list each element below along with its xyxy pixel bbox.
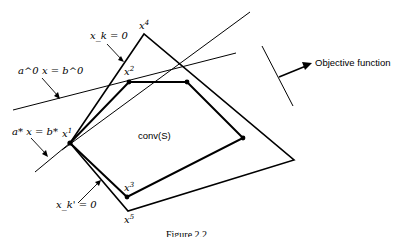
outer-polytope bbox=[70, 34, 294, 211]
astar-pointer bbox=[31, 138, 46, 154]
vertex-label-x2: x2 bbox=[124, 66, 134, 77]
vertex-label-x1: x1 bbox=[62, 128, 72, 139]
vertex-label-x3: x3 bbox=[124, 182, 134, 193]
vertex-dot-x3 bbox=[125, 195, 130, 200]
vertex-dot-x1 bbox=[67, 140, 72, 145]
vertex-dot-x2 bbox=[127, 80, 132, 85]
vertex-dot-upper-right bbox=[185, 80, 190, 85]
vertex-dot-right bbox=[241, 136, 246, 141]
xk-zero-label: x_k = 0 bbox=[90, 31, 128, 41]
objective-arrow-shaft bbox=[279, 66, 306, 77]
objective-line bbox=[262, 46, 293, 106]
xkprime-zero-label: x_k' = 0 bbox=[56, 200, 97, 210]
astar-constraint-label: a* x = b* bbox=[12, 127, 58, 137]
a0-pointer bbox=[42, 78, 58, 96]
objective-function-label: Objective function bbox=[315, 58, 391, 68]
vertex-label-x4: x4 bbox=[139, 20, 149, 31]
objective-arrow-head bbox=[302, 62, 312, 70]
conv-s-label: conv(S) bbox=[138, 131, 171, 141]
a0-constraint-label: a^0 x = b^0 bbox=[18, 66, 83, 76]
vertex-label-x5: x5 bbox=[124, 214, 134, 225]
figure-caption: Figure 2.2 bbox=[166, 229, 207, 237]
xk-pointer bbox=[107, 44, 122, 60]
